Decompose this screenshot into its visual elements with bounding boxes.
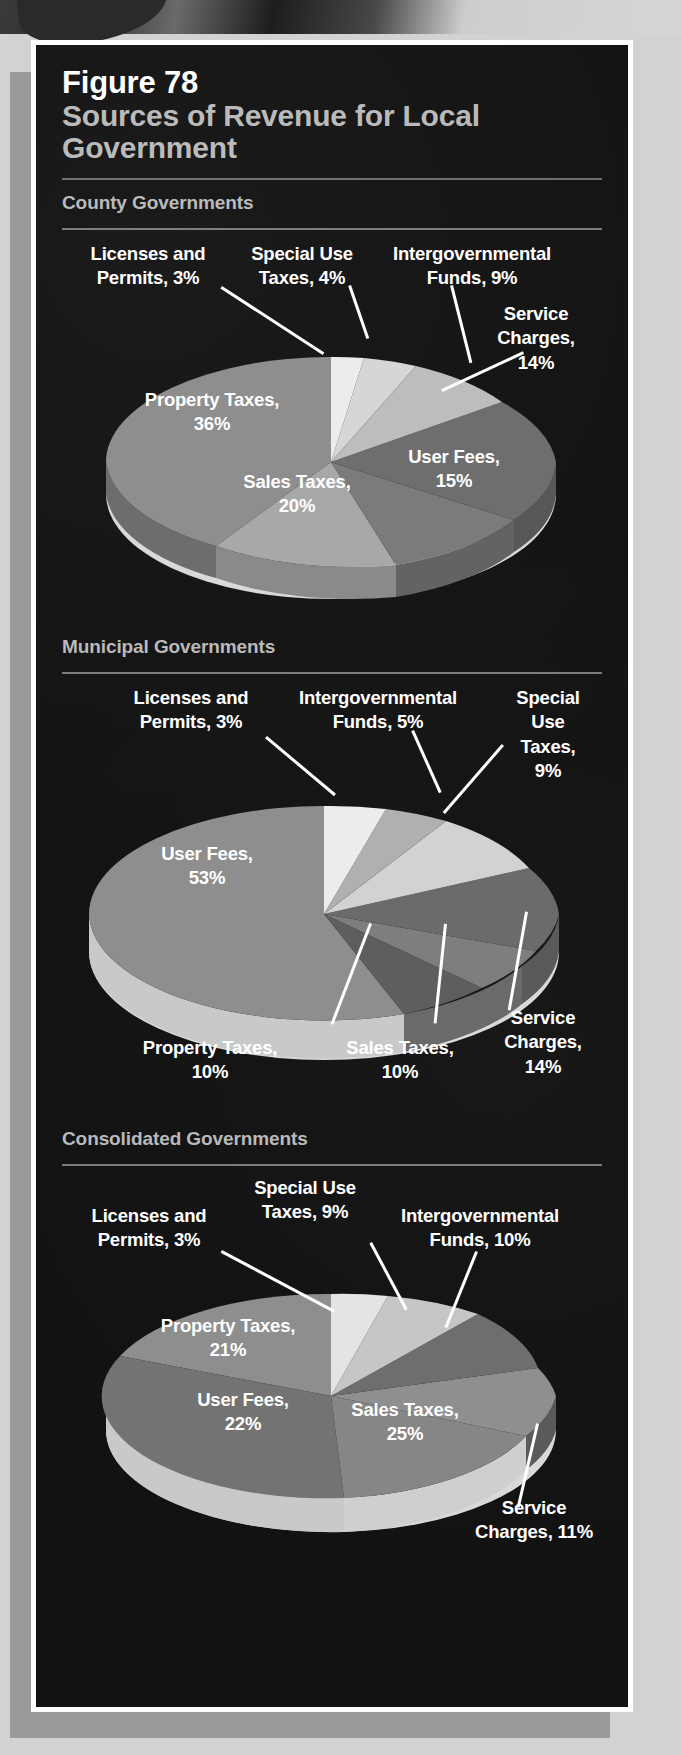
figure-title: Sources of Revenue for Local Government [62,100,602,164]
scan-artifact-band [0,0,681,34]
label-municipal-user-fees: User Fees, 53% [132,842,282,891]
label-consolidated-intergov: Intergovernmental Funds, 10% [380,1204,580,1253]
figure-number: Figure 78 [62,67,602,100]
label-municipal-intergov: Intergovernmental Funds, 5% [278,686,478,735]
title-divider [62,178,602,180]
pie-consolidated [96,1276,566,1516]
label-consolidated-user-fees: User Fees, 22% [168,1388,318,1437]
label-municipal-service-charges: Service Charges, 14% [480,1006,606,1079]
chart-municipal: Licenses and Permits, 3% Intergovernment… [62,674,602,1126]
chart-consolidated: Special Use Taxes, 9% Licenses and Permi… [62,1166,602,1566]
section-heading-consolidated: Consolidated Governments [62,1128,602,1150]
figure-panel: Figure 78 Sources of Revenue for Local G… [36,45,628,1707]
label-county-sales: Sales Taxes, 20% [217,470,377,519]
pie-consolidated-svg [96,1276,566,1516]
label-consolidated-special-use: Special Use Taxes, 9% [230,1176,380,1225]
label-consolidated-sales: Sales Taxes, 25% [320,1398,490,1447]
label-consolidated-licenses: Licenses and Permits, 3% [68,1204,230,1253]
label-county-licenses: Licenses and Permits, 3% [68,242,228,291]
label-municipal-property: Property Taxes, 10% [120,1036,300,1085]
section-heading-county: County Governments [62,192,602,214]
label-municipal-sales: Sales Taxes, 10% [320,1036,480,1085]
section-heading-municipal: Municipal Governments [62,636,602,658]
label-municipal-special-use: Special Use Taxes, 9% [492,686,604,784]
label-county-property: Property Taxes, 36% [122,388,302,437]
label-consolidated-property: Property Taxes, 21% [138,1314,318,1363]
chart-county: Licenses and Permits, 3% Special Use Tax… [62,230,602,630]
label-county-intergov: Intergovernmental Funds, 9% [372,242,572,291]
figure-panel-frame: Figure 78 Sources of Revenue for Local G… [31,40,633,1712]
label-consolidated-service-charges: Service Charges, 11% [448,1496,620,1545]
label-county-special-use: Special Use Taxes, 4% [234,242,370,291]
label-municipal-licenses: Licenses and Permits, 3% [110,686,272,735]
label-county-user-fees: User Fees, 15% [384,445,524,494]
